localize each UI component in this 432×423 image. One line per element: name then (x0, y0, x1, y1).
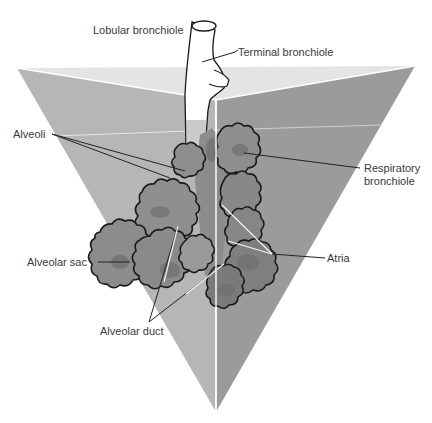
shade-spot (237, 254, 259, 270)
label-respiratory-bronchiole-2: bronchiole (364, 175, 415, 187)
label-atria: Atria (327, 252, 351, 264)
lung-lobule-diagram: Lobular bronchiole Terminal bronchiole A… (0, 0, 432, 423)
label-respiratory-bronchiole-1: Respiratory (364, 162, 421, 174)
shade-spot (217, 284, 235, 296)
label-terminal-bronchiole: Terminal bronchiole (238, 46, 333, 58)
label-lobular-bronchiole: Lobular bronchiole (93, 24, 184, 36)
label-alveolar-sac: Alveolar sac (27, 256, 87, 268)
shade-spot (232, 144, 248, 156)
bronchiole-opening (192, 21, 216, 31)
label-alveolar-duct: Alveolar duct (100, 325, 164, 337)
label-alveoli: Alveoli (13, 128, 45, 140)
shade-spot (150, 206, 170, 218)
